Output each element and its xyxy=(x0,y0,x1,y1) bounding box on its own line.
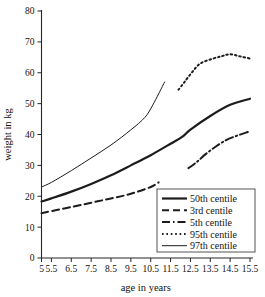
series-line-5th-centile xyxy=(188,131,250,168)
legend-label-3rd-centile: 3rd centile xyxy=(190,205,233,216)
y-tick-label: 0 xyxy=(30,253,35,263)
legend-label-5th-centile: 5th centile xyxy=(190,217,232,228)
y-tick-label: 20 xyxy=(25,192,35,202)
y-axis-title: weight in kg xyxy=(2,108,13,161)
x-tick-label: 10.5 xyxy=(142,264,159,274)
series-line-50th-centile xyxy=(42,99,251,202)
y-tick-label: 40 xyxy=(25,130,35,140)
x-tick-label: 7.5 xyxy=(85,264,97,274)
legend-label-95th-centile: 95th centile xyxy=(190,229,237,240)
y-tick-label: 50 xyxy=(25,99,35,109)
x-tick-label: 5 xyxy=(39,264,44,274)
series-line-3rd-centile xyxy=(42,182,159,213)
y-tick-label: 30 xyxy=(25,161,35,171)
x-tick-label: 9.5 xyxy=(125,264,137,274)
legend-label-97th-centile: 97th centile xyxy=(190,240,237,251)
series-line-97th-centile xyxy=(42,82,165,187)
series-line-95th-centile xyxy=(179,54,250,90)
y-tick-label: 60 xyxy=(25,68,35,78)
y-tick-label: 10 xyxy=(25,223,35,233)
x-tick-label: 6.5 xyxy=(65,264,77,274)
x-tick-label: 5.5 xyxy=(45,264,57,274)
x-tick-label: 11.5 xyxy=(162,264,179,274)
x-axis-title: age in years xyxy=(121,282,171,293)
legend-label-50th-centile: 50th centile xyxy=(190,193,237,204)
chart-legend: 50th centile3rd centile5th centile95th c… xyxy=(157,189,255,252)
x-tick-label: 15.5 xyxy=(242,264,259,274)
y-axis-ticks: 01020304050607080 xyxy=(25,6,42,263)
x-tick-label: 12.5 xyxy=(182,264,199,274)
growth-chart: 01020304050607080 55.56.57.58.59.510.511… xyxy=(0,0,265,297)
x-tick-label: 13.5 xyxy=(202,264,219,274)
chart-canvas: 01020304050607080 55.56.57.58.59.510.511… xyxy=(0,0,265,297)
x-tick-label: 14.5 xyxy=(222,264,239,274)
y-tick-label: 70 xyxy=(25,37,35,47)
y-tick-label: 80 xyxy=(25,6,35,16)
x-axis-ticks: 55.56.57.58.59.510.511.512.513.514.515.5 xyxy=(39,258,258,274)
x-tick-label: 8.5 xyxy=(105,264,117,274)
